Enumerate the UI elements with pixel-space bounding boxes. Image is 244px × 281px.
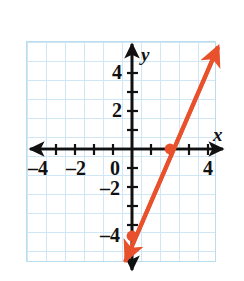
y-tick-label-2: 2 — [112, 100, 122, 120]
y-axis-name: y — [141, 45, 149, 64]
x-tick-label-4: 4 — [203, 158, 213, 178]
y-tick-label-neg2: –2 — [100, 178, 120, 198]
graph-figure: –4 –2 4 0 4 2 –2 –4 y x — [0, 0, 244, 281]
y-tick-label-4: 4 — [112, 62, 122, 82]
point-x-intercept — [165, 144, 176, 155]
x-tick-label-neg4: –4 — [28, 158, 48, 178]
plot-overlay — [0, 0, 244, 281]
x-axis-name: x — [213, 125, 223, 144]
x-tick-label-neg2: –2 — [66, 158, 86, 178]
origin-label: 0 — [110, 158, 120, 178]
plotted-line — [125, 47, 218, 262]
y-tick-label-neg4: –4 — [100, 225, 120, 245]
x-axis — [30, 144, 223, 155]
point-y-intercept — [127, 231, 138, 242]
